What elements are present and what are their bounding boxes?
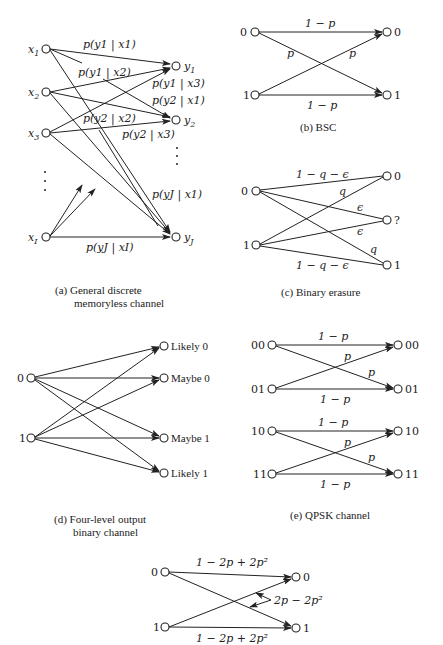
- qpsk-label-00-01: p: [368, 366, 375, 379]
- panel-e-qpsk: 00 01 10 11 00 01 10 11 1 − p p p 1 − p …: [251, 330, 419, 522]
- bec-label-top: 1 − q − ϵ: [296, 168, 349, 181]
- panel-d-four-level-output: 0 1 Likely 0 Maybe 0 Maybe 1 Likely 1 (d…: [17, 340, 210, 538]
- caption-a-line1: (a) General discrete: [55, 284, 142, 297]
- qpsk-input-11: 11: [253, 468, 267, 481]
- panel-b-bsc: 0 1 0 1 1 − p p p 1 − p (b) BSC: [240, 17, 401, 134]
- bec-label-eps-top: ϵ: [357, 201, 363, 214]
- input-label-x3: x3: [28, 127, 39, 142]
- cascade-input-1: 1: [153, 621, 160, 634]
- input-node-x2: [42, 88, 50, 96]
- caption-e: (e) QPSK channel: [290, 509, 370, 522]
- edge-label-y1x2: p(y1 | x2): [78, 66, 131, 80]
- caption-d-line1: (d) Four-level output: [54, 513, 146, 526]
- panel-c-binary-erasure: 0 1 0 ? 1 1 − q − ϵ q ϵ ϵ q 1 − q − ϵ (c…: [241, 168, 401, 299]
- panel-a-general-dmc: x1 x2 x3 xI y1 y2 yJ p(y1 | x1) p(y1 | x…: [28, 38, 205, 309]
- edge-label-y2x3: p(y2 | x3): [122, 128, 175, 142]
- qpsk-label-01-00: p: [344, 350, 351, 363]
- bsc-input-0: 0: [240, 26, 247, 39]
- output-label-y2: y2: [183, 114, 195, 129]
- cascade-label-cross: 2p − 2p²: [273, 594, 323, 607]
- bec-output-erasure: ?: [394, 214, 400, 227]
- output-node-y2: [172, 116, 180, 124]
- bec-label-bottom: 1 − q − ϵ: [296, 259, 349, 272]
- caption-c: (c) Binary erasure: [281, 286, 361, 299]
- ellipsis-outputs: [176, 147, 178, 165]
- edge-label-yJxI: p(yJ | xI): [86, 241, 134, 255]
- qpsk-label-01-01: 1 − p: [320, 393, 350, 406]
- qpsk-input-00: 00: [251, 339, 265, 352]
- qpsk-label-11-10: p: [344, 436, 351, 449]
- bec-output-0: 0: [394, 170, 401, 183]
- edge-label-y1x1: p(y1 | x1): [83, 38, 136, 52]
- input-label-x2: x2: [28, 86, 39, 101]
- cascade-output-1: 1: [303, 622, 310, 635]
- cascade-label-top: 1 − 2p + 2p²: [196, 556, 268, 569]
- bec-input-1: 1: [243, 239, 250, 252]
- bsc-output-1: 1: [394, 89, 401, 102]
- cascade-label-bottom: 1 − 2p + 2p²: [196, 632, 268, 645]
- qpsk-label-10-10: 1 − p: [318, 416, 348, 429]
- qpsk-label-10-11: p: [368, 451, 375, 464]
- qpsk-output-01: 01: [405, 383, 419, 396]
- bec-label-q-down: q: [370, 243, 377, 256]
- qpsk-output-00: 00: [405, 339, 419, 352]
- output-node-y1: [172, 62, 180, 70]
- channel-diagrams: x1 x2 x3 xI y1 y2 yJ p(y1 | x1) p(y1 | x…: [0, 0, 443, 645]
- qpsk-output-11: 11: [405, 468, 419, 481]
- input-node-xI: [42, 233, 50, 241]
- input-node-x3: [42, 129, 50, 137]
- bsc-label-cross-down: p: [287, 47, 294, 60]
- bec-label-eps-bottom: ϵ: [357, 225, 363, 238]
- four-level-input-0: 0: [17, 372, 24, 385]
- caption-a-line2: memoryless channel: [74, 297, 164, 309]
- panel-f-cascaded-bsc: 0 1 0 1 1 − 2p + 2p² 2p − 2p² 1 − 2p + 2…: [151, 556, 323, 645]
- bsc-label-cross-up: p: [349, 47, 356, 60]
- edge-label-y2x1: p(y2 | x1): [152, 94, 205, 108]
- four-level-input-1: 1: [19, 432, 26, 445]
- cascade-output-0: 0: [303, 571, 310, 584]
- bsc-label-bottom: 1 − p: [307, 99, 337, 112]
- qpsk-label-11-11: 1 − p: [320, 478, 350, 491]
- cross-label-pointer: [250, 593, 271, 607]
- qpsk-input-10: 10: [251, 425, 265, 438]
- four-level-output-maybe-1: Maybe 1: [171, 432, 210, 444]
- four-level-output-likely-1: Likely 1: [171, 467, 208, 479]
- caption-b: (b) BSC: [300, 121, 336, 134]
- bsc-label-top: 1 − p: [305, 17, 335, 30]
- input-label-xI: xI: [28, 231, 38, 246]
- bsc-input-1: 1: [243, 89, 250, 102]
- ellipsis-inputs: [44, 171, 46, 191]
- bec-label-q-up: q: [339, 185, 346, 198]
- qpsk-input-01: 01: [251, 383, 265, 396]
- bec-input-0: 0: [241, 185, 248, 198]
- bec-output-1: 1: [394, 259, 401, 272]
- input-node-x1: [42, 45, 50, 53]
- edge-label-yJx1: p(yJ | x1): [152, 188, 202, 202]
- four-level-output-likely-0: Likely 0: [171, 340, 208, 352]
- output-label-y1: y1: [183, 60, 195, 75]
- cascade-input-0: 0: [151, 566, 158, 579]
- caption-d-line2: binary channel: [73, 526, 138, 538]
- edge-label-y1x3: p(y1 | x3): [152, 77, 205, 91]
- output-label-yJ: yJ: [183, 231, 194, 246]
- qpsk-label-00-00: 1 − p: [318, 330, 348, 343]
- output-node-yJ: [172, 233, 180, 241]
- input-label-x1: x1: [28, 43, 39, 58]
- four-level-output-maybe-0: Maybe 0: [171, 372, 210, 384]
- edge-label-y2x2: p(y2 | x2): [83, 112, 136, 126]
- qpsk-output-10: 10: [405, 425, 419, 438]
- bsc-output-0: 0: [394, 26, 401, 39]
